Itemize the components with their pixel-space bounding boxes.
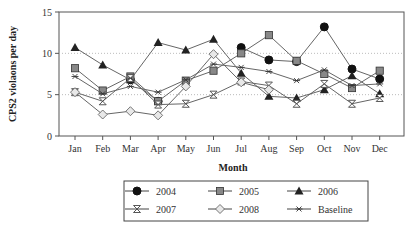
legend-label: 2006 (318, 186, 338, 197)
triangle-marker-icon (98, 60, 107, 68)
y-tick-label: 15 (42, 7, 52, 18)
square-marker-icon (210, 67, 217, 74)
x-tick-label: Dec (372, 143, 389, 154)
x-tick-label: Sep (289, 143, 304, 154)
hourglass-marker-icon (349, 100, 356, 107)
asterisk-marker-icon (293, 78, 300, 83)
x-axis-title: Month (219, 162, 248, 173)
circle-marker-icon (320, 23, 328, 31)
legend-label: 2005 (239, 186, 259, 197)
circle-marker-icon (376, 75, 384, 83)
square-marker-icon (71, 65, 78, 72)
series-2004 (126, 23, 383, 105)
series-line (130, 27, 379, 101)
series-baseline (72, 62, 384, 97)
series-2008 (71, 50, 274, 120)
square-marker-icon (265, 32, 272, 39)
legend-label: Baseline (318, 204, 353, 215)
x-tick-label: Oct (317, 143, 332, 154)
legend: 20042005200620072008Baseline (124, 181, 368, 221)
square-marker-icon (376, 67, 383, 74)
x-tick-label: Feb (95, 143, 110, 154)
x-tick-label: Nov (343, 143, 360, 154)
asterisk-marker-icon (265, 69, 272, 74)
asterisk-marker-icon (127, 84, 134, 89)
diamond-marker-icon (126, 107, 135, 116)
square-marker-icon (238, 50, 245, 57)
hourglass-marker-icon (99, 98, 106, 105)
asterisk-marker-icon (155, 90, 162, 95)
y-tick-label: 5 (47, 89, 52, 100)
legend-label: 2007 (156, 204, 176, 215)
square-marker-icon (293, 57, 300, 64)
triangle-marker-icon (154, 38, 163, 46)
legend-label: 2008 (239, 204, 259, 215)
diamond-marker-icon (264, 85, 273, 94)
x-tick-label: Jul (235, 143, 247, 154)
y-tick-label: 10 (42, 48, 52, 59)
circle-marker-icon (133, 187, 141, 195)
x-tick-label: Apr (150, 143, 166, 154)
hourglass-marker-icon (321, 80, 328, 87)
line-chart: 051015JanFebMarAprMayJunJulAugSepOctNovD… (0, 0, 417, 226)
triangle-marker-icon (71, 43, 80, 51)
x-tick-label: May (177, 143, 195, 154)
y-tick-label: 0 (47, 131, 52, 142)
hourglass-marker-icon (293, 100, 300, 107)
triangle-marker-icon (209, 35, 218, 43)
triangle-marker-icon (348, 71, 357, 79)
series-line (75, 78, 380, 104)
circle-marker-icon (265, 56, 273, 64)
square-marker-icon (216, 187, 223, 194)
x-tick-label: Mar (122, 143, 139, 154)
x-tick-label: Aug (260, 143, 277, 154)
hourglass-marker-icon (376, 94, 383, 101)
x-tick-label: Jan (68, 143, 81, 154)
x-tick-label: Jun (207, 143, 221, 154)
y-axis-title: CPS2 violaons per day (7, 26, 18, 122)
plot-area: 051015JanFebMarAprMayJunJulAugSepOctNovD… (42, 7, 404, 155)
legend-label: 2004 (156, 186, 176, 197)
